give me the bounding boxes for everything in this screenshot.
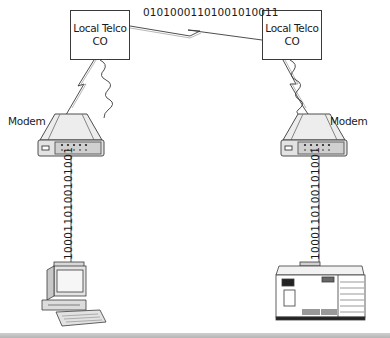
computer-icon: [42, 262, 106, 326]
co-left-line1: Local Telco: [73, 22, 126, 35]
telco-co-left: Local Telco CO: [70, 10, 130, 60]
bottom-divider: [0, 333, 390, 338]
trunk-bitstream: 01010001101001010011: [143, 6, 279, 18]
diagram-graphics: [0, 0, 390, 338]
modem-right-label: Modem: [330, 115, 367, 127]
right-serial-bitstream: 1000110100101001: [309, 147, 321, 260]
network-diagram: Local Telco CO Local Telco CO 0101000110…: [0, 0, 390, 338]
co-right-line2: CO: [285, 35, 300, 48]
left-local-loop: [63, 60, 113, 120]
left-serial-bitstream: 1000110100101001: [62, 147, 74, 260]
right-local-loop: [283, 60, 312, 120]
co-left-line2: CO: [93, 35, 108, 48]
modem-left-label: Modem: [8, 115, 45, 127]
server-icon: [276, 262, 365, 320]
co-right-line1: Local Telco: [265, 22, 318, 35]
trunk-link: [130, 26, 262, 40]
